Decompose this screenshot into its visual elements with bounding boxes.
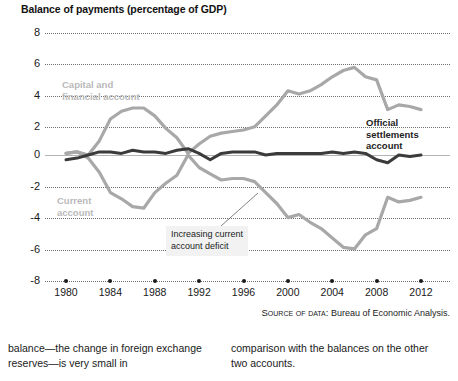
series-label-capital-financial-account: Capital andfinancial account [62, 79, 140, 102]
body-text-right-column: comparison with the balances on the othe… [231, 341, 446, 371]
source-value: Bureau of Economic Analysis. [331, 308, 450, 318]
body-text-columns: balance—the change in foreign exchange r… [0, 341, 458, 371]
chart-plot-area: 8 6 4 2 0 -2 -4 -6 -8 198019841988199219… [0, 0, 458, 300]
series-label-official-settlements-account: Officialsettlementsaccount [366, 117, 419, 152]
annotation-leader-line [221, 193, 258, 226]
body-text-left-column: balance—the change in foreign exchange r… [8, 341, 223, 371]
source-label: Source of data: [262, 307, 329, 318]
series-label-current-account: Currentaccount [57, 195, 93, 218]
source-of-data-line: Source of data: Bureau of Economic Analy… [262, 307, 450, 318]
annotation-increasing-current-account-deficit: Increasing currentaccount deficit [166, 226, 248, 256]
